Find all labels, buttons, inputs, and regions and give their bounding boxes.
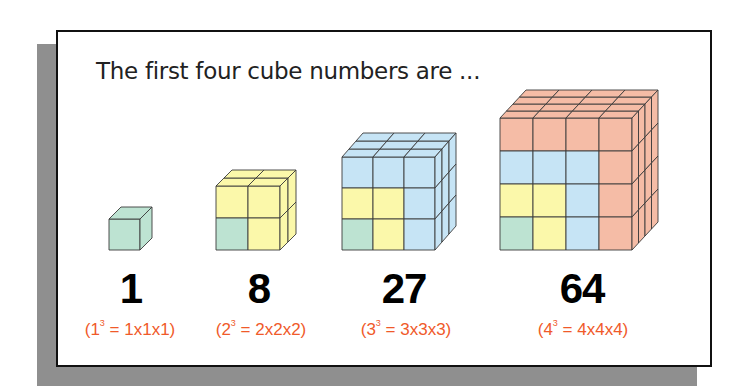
- cube-number-64: 64: [560, 265, 605, 313]
- side-cell: [639, 203, 646, 243]
- front-cell: [248, 218, 280, 250]
- front-cell: [566, 118, 599, 151]
- front-cell: [404, 188, 435, 219]
- front-cell: [500, 217, 533, 250]
- formula-8: (23 = 2x2x2): [216, 320, 307, 340]
- front-cell: [342, 188, 373, 219]
- front-cell: [404, 219, 435, 250]
- front-cell: [566, 184, 599, 217]
- front-cell: [373, 188, 404, 219]
- front-cell: [248, 186, 280, 218]
- side-cell: [645, 196, 652, 236]
- front-cell: [500, 118, 533, 151]
- cube-number-1: 1: [120, 265, 142, 313]
- front-cell: [216, 186, 248, 218]
- front-cell: [373, 219, 404, 250]
- formula-27: (33 = 3x3x3): [361, 320, 452, 340]
- front-cell: [599, 184, 632, 217]
- front-cell: [599, 118, 632, 151]
- front-cell: [533, 151, 566, 184]
- cube-number-8: 8: [248, 265, 270, 313]
- front-cell: [599, 217, 632, 250]
- front-cell: [566, 151, 599, 184]
- front-cell: [216, 218, 248, 250]
- front-cell: [404, 157, 435, 188]
- front-cell: [533, 184, 566, 217]
- front-cell: [566, 217, 599, 250]
- front-cell: [109, 219, 140, 250]
- cube-number-27: 27: [382, 265, 427, 313]
- front-cell: [500, 184, 533, 217]
- front-cell: [533, 217, 566, 250]
- front-cell: [342, 219, 373, 250]
- front-cell: [500, 151, 533, 184]
- side-cell: [652, 189, 659, 229]
- front-cell: [533, 118, 566, 151]
- side-cell: [632, 210, 639, 250]
- formula-64: (43 = 4x4x4): [538, 320, 629, 340]
- front-cell: [373, 157, 404, 188]
- formula-1: (13 = 1x1x1): [85, 320, 176, 340]
- front-cell: [342, 157, 373, 188]
- front-cell: [599, 151, 632, 184]
